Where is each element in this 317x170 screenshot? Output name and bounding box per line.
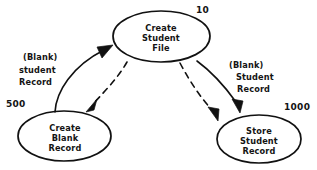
node-create-blank-record-line3: Record	[48, 143, 81, 153]
edge-label-right-line2: Student	[236, 72, 274, 82]
edge-file-to-blank-record-arrowhead	[86, 99, 97, 112]
edge-file-to-blank-record	[86, 62, 127, 112]
node-create-student-file-number: 10	[196, 5, 209, 15]
node-store-student-record-number: 1000	[284, 102, 310, 112]
edge-blank-record-to-file	[55, 45, 113, 112]
node-store-student-record-line1: Store	[246, 126, 272, 136]
edge-file-to-store-record-dashed-arrowhead	[208, 107, 219, 121]
node-create-blank-record-line2: Blank	[52, 133, 79, 143]
edge-file-to-blank-record-line	[93, 62, 127, 104]
node-create-blank-record[interactable]: Create Blank Record 500	[6, 99, 111, 161]
diagram-canvas: Create Student File 10 Create Blank Reco…	[0, 0, 317, 170]
edge-label-right-line3: Record	[237, 84, 270, 94]
node-create-student-file-line1: Create	[145, 23, 177, 33]
node-store-student-record-line2: Student	[240, 136, 278, 146]
node-create-blank-record-number: 500	[6, 99, 26, 109]
edge-blank-record-to-file-line	[55, 50, 104, 112]
edge-label-left-line3: Record	[19, 77, 52, 87]
node-create-blank-record-line1: Create	[49, 123, 81, 133]
edge-label-blank-student-record-right: (Blank) Student Record	[229, 60, 274, 94]
edge-file-to-store-record-dashed	[180, 63, 219, 121]
node-create-student-file-line3: File	[152, 43, 170, 53]
node-create-student-file[interactable]: Create Student File 10	[113, 5, 210, 62]
node-create-student-file-line2: Student	[142, 33, 180, 43]
node-store-student-record-line3: Record	[242, 146, 275, 156]
edge-blank-record-to-file-arrowhead	[97, 45, 113, 58]
edge-label-right-line1: (Blank)	[229, 60, 263, 70]
edge-file-to-store-record-solid-arrowhead	[232, 99, 243, 113]
node-store-student-record[interactable]: Store Student Record 1000	[217, 102, 310, 163]
edge-label-left-line2: student	[19, 65, 56, 75]
edge-label-left-line1: (Blank)	[23, 52, 57, 62]
edge-label-blank-student-record-left: (Blank) student Record	[19, 52, 57, 87]
